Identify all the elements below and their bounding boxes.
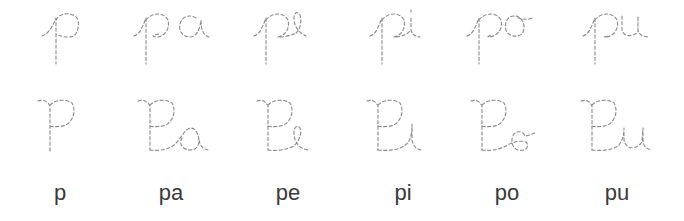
print-label-p: p [20,180,100,206]
print-label-pi: pi [363,180,443,206]
print-label-pa: pa [131,180,211,206]
print-label-pe: pe [248,180,328,206]
tracing-worksheet: p pa pe pi po pu [0,0,684,221]
print-label-pu: pu [577,180,657,206]
print-label-po: po [467,180,547,206]
dashed-cursive-capital-pu [0,0,684,160]
